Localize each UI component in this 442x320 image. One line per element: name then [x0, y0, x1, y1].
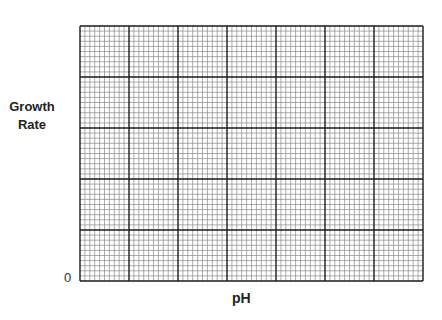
blank-graph: Growth Rate 0 pH	[0, 0, 442, 320]
graph-grid	[0, 0, 442, 320]
